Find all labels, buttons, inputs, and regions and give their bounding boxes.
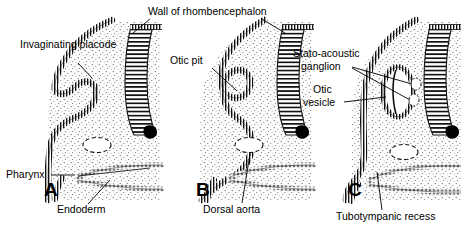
vessel-solid-a bbox=[143, 125, 157, 138]
dorsal-aorta-c bbox=[390, 145, 418, 160]
vessel-solid-c bbox=[445, 125, 459, 138]
panel-letter-a: A bbox=[44, 179, 58, 200]
label-dorsal-aorta: Dorsal aorta bbox=[203, 203, 260, 215]
label-stato-acoustic-ganglion-line1: Stato-acoustic bbox=[293, 47, 360, 59]
panel-letter-c: C bbox=[348, 179, 362, 200]
label-stato-acoustic-ganglion-line2: ganglion bbox=[301, 60, 341, 72]
diagram-canvas: A B bbox=[0, 0, 461, 227]
label-otic-vesicle-line1: Otic bbox=[313, 83, 332, 95]
stato-acoustic-ganglion-upper-c bbox=[411, 78, 421, 90]
label-endoderm: Endoderm bbox=[57, 203, 106, 215]
label-otic-vesicle-line2: vesicle bbox=[303, 96, 335, 108]
dorsal-aorta-b bbox=[235, 138, 263, 153]
label-wall-of-rhombencephalon: Wall of rhombencephalon bbox=[148, 5, 267, 17]
figure-otic-development: A B bbox=[0, 0, 461, 227]
label-pharynx: Pharynx bbox=[6, 168, 45, 180]
vessel-solid-b bbox=[295, 125, 309, 138]
stato-acoustic-ganglion-lower-c bbox=[409, 94, 419, 106]
label-tubotympanic-recess: Tubotympanic recess bbox=[336, 210, 435, 222]
label-otic-pit: Otic pit bbox=[170, 54, 203, 66]
dorsal-aorta-a bbox=[83, 138, 111, 153]
label-invaginating-placode-line1: Invaginating placode bbox=[20, 38, 116, 50]
panel-letter-b: B bbox=[196, 179, 210, 200]
